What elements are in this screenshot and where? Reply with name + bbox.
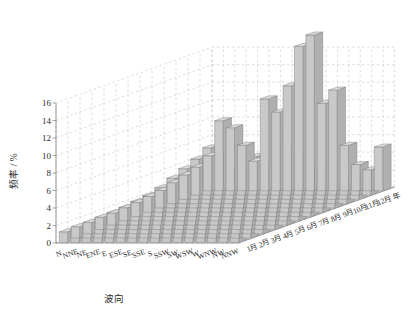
bar-front-face <box>351 165 359 191</box>
grid-line-depth <box>56 117 212 173</box>
x-category-label-ENE: ENE <box>85 247 102 261</box>
x-category-label-SSE: SSE <box>131 247 147 260</box>
grid-line-depth <box>56 82 212 138</box>
bar-front-face <box>260 99 268 191</box>
bar-front-face <box>272 112 280 191</box>
chart-canvas: 0246810121416 NNNENEENEEESESESSESSSWSWWS… <box>0 0 416 334</box>
grid-line-depth <box>56 47 212 103</box>
bar-front-face <box>374 147 382 191</box>
y-axis-ticks: 0246810121416 <box>42 98 56 248</box>
bar-front-face <box>143 197 151 213</box>
y-tick-label: 6 <box>47 186 52 196</box>
bar-front-face <box>179 175 187 200</box>
bar-front-face <box>71 227 79 238</box>
y-tick-label: 10 <box>42 151 52 161</box>
bar-front-face <box>83 222 91 233</box>
x-category-label-E: E <box>101 249 109 259</box>
x-axis-title: 波向 <box>104 291 124 305</box>
bar-front-face <box>131 203 139 217</box>
bar-front-face <box>249 161 257 191</box>
bar-front-face <box>283 86 291 191</box>
bar-front-face <box>107 213 115 225</box>
x-axis-category-labels: NNNENEENEEESESESSESSSWSWWSWWWNWNWNNW <box>55 246 241 262</box>
grid-line-depth <box>56 100 212 156</box>
y-tick-label: 16 <box>42 98 52 108</box>
bar-front-face <box>226 128 234 191</box>
y-tick-label: 8 <box>47 168 52 178</box>
y-tick-label: 4 <box>47 203 52 213</box>
bar-front-face <box>294 46 302 190</box>
y-tick-label: 2 <box>47 221 52 231</box>
y-axis-title: 频率 / % <box>6 126 20 216</box>
bar-front-face <box>155 190 163 208</box>
y-tick-label: 14 <box>42 116 52 126</box>
y-tick-label: 0 <box>47 238 52 248</box>
bar-front-face <box>59 232 67 243</box>
bar-front-face <box>191 167 199 195</box>
bar-front-face <box>329 90 337 191</box>
bar-front-face <box>167 183 175 204</box>
bar-年-NNW <box>374 144 391 191</box>
bar-front-face <box>340 145 348 191</box>
bar-front-face <box>203 156 211 191</box>
grid-line-depth <box>56 65 212 121</box>
bar-front-face <box>317 103 325 191</box>
bar-front-face <box>119 208 127 221</box>
bar-front-face <box>215 121 223 191</box>
y-tick-label: 12 <box>42 133 51 143</box>
bar-side-face <box>383 144 391 191</box>
bar-front-face <box>363 170 371 191</box>
bar-front-face <box>306 35 314 191</box>
bar-front-face <box>237 145 245 191</box>
wave-direction-frequency-3d-chart: 0246810121416 NNNENEENEEESESESSESSSWSWWS… <box>0 0 416 334</box>
bar-front-face <box>95 217 103 229</box>
